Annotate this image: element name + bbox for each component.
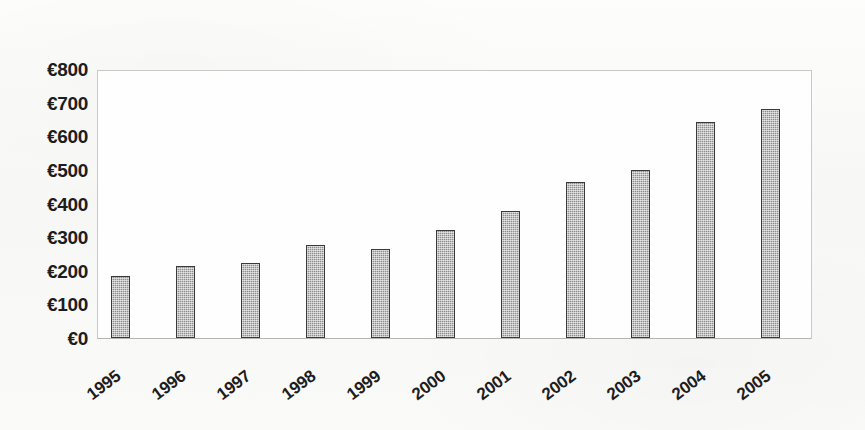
bar-2002 bbox=[566, 182, 585, 338]
x-axis-tick-label: 1997 bbox=[213, 366, 255, 404]
chart-page: €800€700€600€500€400€300€200€100€0 19951… bbox=[0, 0, 865, 430]
y-axis-tick-label: €100 bbox=[0, 294, 88, 316]
x-axis-tick-label: 2003 bbox=[603, 366, 645, 404]
bar-2005 bbox=[761, 109, 780, 338]
bar-2000 bbox=[436, 230, 455, 338]
bars-layer bbox=[98, 71, 811, 338]
bar-2001 bbox=[501, 211, 520, 338]
x-axis-tick-label: 1999 bbox=[343, 366, 385, 404]
x-axis-tick-label: 2004 bbox=[668, 366, 710, 404]
y-axis-tick-label: €500 bbox=[0, 160, 88, 182]
y-axis-tick-label: €600 bbox=[0, 126, 88, 148]
x-axis-tick-label: 2000 bbox=[408, 366, 450, 404]
bar-1996 bbox=[176, 266, 195, 338]
x-axis-tick-label: 2002 bbox=[538, 366, 580, 404]
x-axis-tick-label: 2001 bbox=[473, 366, 515, 404]
plot-area bbox=[97, 70, 812, 339]
x-axis-tick-label: 1995 bbox=[83, 366, 125, 404]
bar-1997 bbox=[241, 263, 260, 338]
y-axis-tick-label: €0 bbox=[0, 328, 88, 350]
y-axis-tick-label: €800 bbox=[0, 59, 88, 81]
bar-1999 bbox=[371, 249, 390, 338]
y-axis-tick-label: €400 bbox=[0, 194, 88, 216]
bar-1998 bbox=[306, 245, 325, 338]
x-axis: 1995199619971998199920002001200220032004… bbox=[97, 339, 812, 429]
bar-1995 bbox=[111, 276, 130, 338]
bar-2004 bbox=[696, 122, 715, 338]
y-axis-tick-label: €700 bbox=[0, 93, 88, 115]
x-axis-tick-label: 1998 bbox=[278, 366, 320, 404]
y-axis-tick-label: €300 bbox=[0, 227, 88, 249]
y-axis: €800€700€600€500€400€300€200€100€0 bbox=[0, 70, 88, 339]
x-axis-tick-label: 1996 bbox=[148, 366, 190, 404]
y-axis-tick-label: €200 bbox=[0, 261, 88, 283]
bar-2003 bbox=[631, 170, 650, 338]
x-axis-tick-label: 2005 bbox=[733, 366, 775, 404]
